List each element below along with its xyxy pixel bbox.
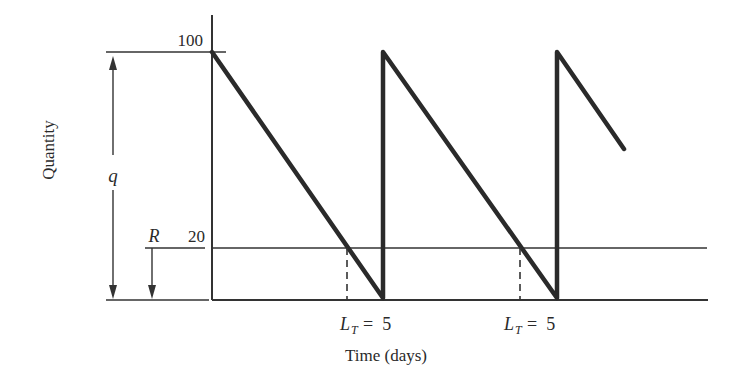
lead-time-1-main: L	[339, 314, 350, 334]
lead-time-2-eq: = 5	[527, 314, 555, 334]
lead-time-1-eq: = 5	[363, 314, 391, 334]
r-label: R	[148, 226, 160, 246]
lead-time-1-sub: T	[351, 323, 359, 337]
lead-time-2-main: L	[503, 314, 514, 334]
r-arrow-head	[148, 285, 156, 299]
y-axis-title: Quantity	[39, 120, 58, 180]
inventory-sawtooth-line	[212, 52, 624, 298]
q-arrow-down-head	[109, 285, 117, 299]
lead-time-2-sub: T	[515, 323, 523, 337]
x-axis-title: Time (days)	[345, 346, 427, 365]
lead-time-label-2: L T = 5	[503, 314, 555, 337]
lead-time-label-1: L T = 5	[339, 314, 391, 337]
q-arrow-up-head	[109, 56, 117, 70]
tick-label-100: 100	[178, 31, 204, 50]
q-label: q	[108, 165, 118, 186]
inventory-chart: 100 20 q R Quantity L T = 5 L T = 5 Time…	[0, 0, 742, 384]
tick-label-20: 20	[188, 227, 205, 246]
